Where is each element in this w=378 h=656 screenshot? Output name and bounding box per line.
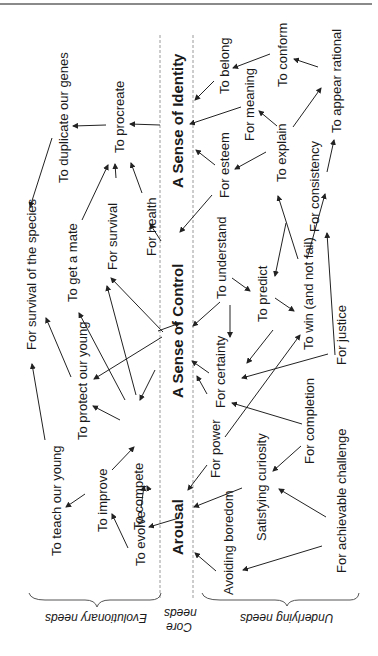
brace-evolutionary: [29, 593, 161, 607]
group-label-underlying: Underlying needs: [240, 612, 333, 624]
group-label-core-1: Core: [166, 621, 192, 633]
brace-layer: [0, 0, 378, 656]
group-label-evolutionary: Evolutionary needs: [45, 612, 147, 624]
brace-underlying: [202, 593, 359, 606]
group-label-core-2: needs: [164, 607, 197, 619]
